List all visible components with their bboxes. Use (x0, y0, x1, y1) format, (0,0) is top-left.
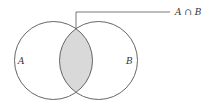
leader-line (76, 12, 170, 29)
set-b-label: B (125, 56, 133, 66)
set-a-label: A (17, 56, 25, 66)
intersection-label: A ∩ B (174, 7, 202, 17)
venn-diagram: A B A ∩ B (0, 0, 207, 108)
